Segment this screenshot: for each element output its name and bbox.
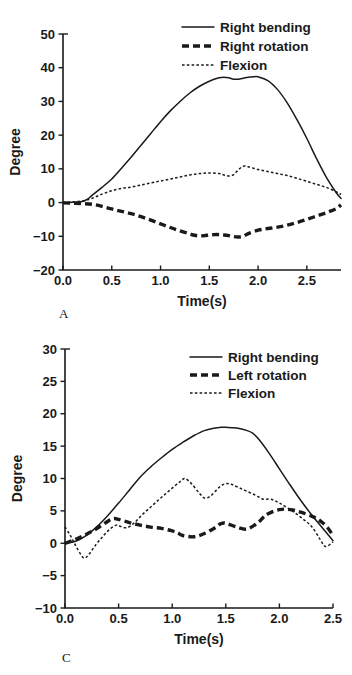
figure-container: −20−10010203040500.00.51.01.52.02.5Time(…	[0, 0, 352, 675]
series-line-right-rotation	[63, 203, 341, 237]
x-tick-label: 1.0	[152, 273, 170, 288]
x-tick-label: 0.0	[56, 611, 74, 626]
chart-panel-c: −10−50510152025300.00.51.01.52.02.5Time(…	[0, 340, 352, 675]
x-tick-label: 1.0	[163, 611, 181, 626]
y-tick-label: −10	[33, 229, 55, 244]
x-tick-label: 2.0	[270, 611, 288, 626]
series-line-right-bending	[63, 77, 341, 203]
x-tick-label: 0.5	[103, 273, 121, 288]
y-tick-label: 5	[50, 503, 57, 518]
chart-svg-a: −20−10010203040500.00.51.01.52.02.5Time(…	[0, 0, 352, 340]
y-tick-label: 20	[43, 406, 57, 421]
x-tick-label: 2.5	[298, 273, 316, 288]
panel-letter-a: A	[59, 306, 69, 321]
legend-label-right-bending: Right bending	[220, 20, 311, 35]
legend-label-right-bending: Right bending	[228, 350, 319, 365]
y-tick-label: 30	[41, 94, 55, 109]
y-tick-label: 50	[41, 27, 55, 42]
y-tick-label: 40	[41, 60, 55, 75]
y-tick-label: 15	[43, 439, 57, 454]
y-tick-label: −20	[33, 263, 55, 278]
x-tick-label: 2.5	[324, 611, 342, 626]
x-tick-label: 0.0	[54, 273, 72, 288]
legend-label-flexion: Flexion	[220, 58, 267, 73]
y-axis-title: Degree	[9, 455, 25, 503]
x-tick-label: 0.5	[110, 611, 128, 626]
y-tick-label: −5	[42, 568, 57, 583]
legend-label-flexion: Flexion	[228, 386, 275, 401]
y-tick-label: 0	[48, 195, 55, 210]
chart-panel-a: −20−10010203040500.00.51.01.52.02.5Time(…	[0, 0, 352, 340]
y-tick-label: −10	[35, 601, 57, 616]
series-line-left-rotation	[65, 509, 333, 543]
y-tick-label: 25	[43, 374, 57, 389]
panel-letter-c: C	[62, 650, 71, 665]
y-tick-label: 10	[43, 471, 57, 486]
legend-label-right-rotation: Right rotation	[220, 39, 308, 54]
x-tick-label: 1.5	[217, 611, 235, 626]
series-line-right-bending	[65, 427, 333, 543]
x-axis-title: Time(s)	[174, 631, 224, 647]
x-axis-title: Time(s)	[177, 293, 227, 309]
plot-axes	[65, 349, 333, 608]
y-tick-label: 30	[43, 342, 57, 357]
y-tick-label: 10	[41, 161, 55, 176]
y-tick-label: 20	[41, 128, 55, 143]
x-tick-label: 1.5	[200, 273, 218, 288]
x-tick-label: 2.0	[249, 273, 267, 288]
legend-label-left-rotation: Left rotation	[228, 368, 307, 383]
y-axis-title: Degree	[7, 128, 23, 176]
chart-svg-c: −10−50510152025300.00.51.01.52.02.5Time(…	[0, 340, 352, 675]
y-tick-label: 0	[50, 536, 57, 551]
